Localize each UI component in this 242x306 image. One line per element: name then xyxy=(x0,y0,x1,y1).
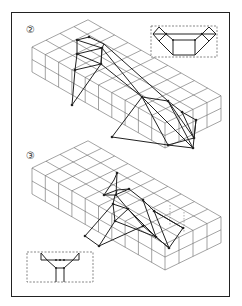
panel-3-grid-block xyxy=(32,141,221,270)
diagram-canvas xyxy=(0,0,242,306)
panel-3-truss xyxy=(85,173,183,248)
panel-3-inset xyxy=(27,252,93,282)
panel-2-inset xyxy=(151,26,217,57)
panel-2-truss-right-nodes xyxy=(111,96,198,150)
panel-2-truss-right xyxy=(112,97,196,148)
panel-2-truss-left xyxy=(72,37,104,105)
